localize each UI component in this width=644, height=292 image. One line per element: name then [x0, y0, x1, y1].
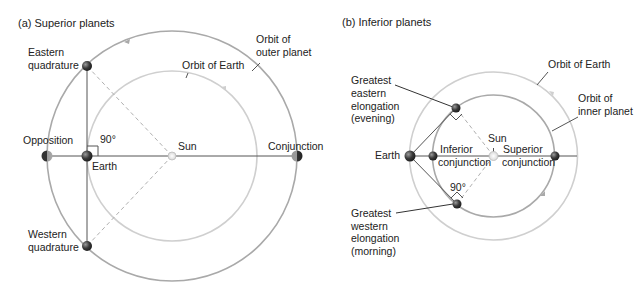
label-gwe-2: western — [351, 220, 388, 233]
label-orbit-earth-a: Orbit of Earth — [182, 59, 244, 72]
inferior-conjunction-planet — [429, 152, 438, 161]
label-gee-1: Greatest — [351, 74, 391, 87]
eastern-quadrature-planet — [82, 61, 92, 71]
label-gwe-3: elongation — [351, 232, 399, 245]
label-opposition: Opposition — [23, 134, 73, 147]
greatest-western-elongation-planet — [453, 200, 462, 209]
label-gee-4: (evening) — [351, 112, 395, 125]
earth-orbit-leader-b — [537, 72, 548, 85]
gwe-leader — [396, 204, 453, 213]
sun-a — [168, 152, 176, 160]
label-orbit-outer-1: Orbit of — [256, 33, 290, 46]
label-conjunction: Conjunction — [268, 140, 323, 153]
label-gwe-1: Greatest — [351, 207, 391, 220]
opposition-planet — [42, 151, 53, 162]
inner-orbit-leader — [552, 117, 578, 131]
right-angle-mark-east — [450, 114, 462, 120]
label-inner-orbit-1: Orbit of — [578, 92, 612, 105]
label-orbit-outer-2: outer planet — [256, 46, 311, 59]
label-orbit-earth-b: Orbit of Earth — [548, 58, 610, 71]
label-inferior-2: conjunction — [438, 156, 491, 169]
label-gee-3: elongation — [351, 100, 399, 113]
label-western-1: Western — [28, 228, 67, 241]
western-quadrature-planet — [82, 241, 92, 251]
label-eastern-2: quadrature — [28, 59, 79, 72]
label-earth-b: Earth — [375, 149, 400, 162]
panel-b-title: (b) Inferior planets — [342, 16, 431, 29]
label-sun-a: Sun — [178, 140, 197, 153]
label-inner-orbit-2: inner planet — [578, 105, 633, 118]
earth-b — [405, 151, 416, 162]
label-superior-1: Superior — [503, 143, 543, 156]
panel-a-superior-planets — [42, 31, 303, 281]
label-gee-2: eastern — [351, 87, 386, 100]
label-angle-a: 90° — [100, 133, 116, 146]
label-gwe-4: (morning) — [351, 245, 396, 258]
greatest-eastern-elongation-planet — [452, 104, 461, 113]
panel-a-title: (a) Superior planets — [18, 17, 115, 30]
label-earth-a: Earth — [92, 160, 117, 173]
label-eastern-1: Eastern — [28, 46, 64, 59]
earth-a — [82, 151, 93, 162]
label-superior-2: conjunction — [502, 156, 555, 169]
label-western-2: quadrature — [28, 241, 79, 254]
label-inferior-1: Inferior — [440, 143, 473, 156]
earth-orbit-leader — [186, 73, 188, 78]
label-angle-b: 90° — [450, 181, 466, 194]
